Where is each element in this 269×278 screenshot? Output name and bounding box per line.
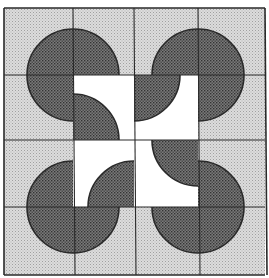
tile-r3-c2 [134,207,198,275]
tile-r0-c0 [4,8,73,75]
tile-r2-c1 [73,140,134,207]
tile-r0-c3 [198,8,265,75]
grid-line-vertical [265,8,267,275]
tile-r0-c2 [134,8,198,75]
tile-r3-c1 [73,207,134,275]
tile-r1-c2 [134,75,198,140]
tile-r3-c3 [198,207,265,275]
tile-r1-c0 [4,75,73,140]
tile-r1-c1 [73,75,134,140]
tile-r2-c3 [198,140,265,207]
tile-r2-c0 [4,140,73,207]
tile-r2-c2 [134,140,198,207]
tile-r1-c3 [198,75,265,140]
tile-pattern [0,0,269,278]
tile-r0-c1 [73,8,134,75]
tile-r3-c0 [4,207,73,275]
